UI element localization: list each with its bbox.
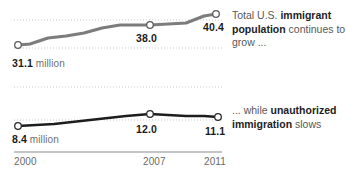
top-value-label-2011: 40.4 xyxy=(203,22,224,33)
caption-top-lead: Total U.S. xyxy=(232,9,280,21)
series-unauthorized-immigration xyxy=(15,111,222,130)
top-unit-text-2000: million xyxy=(36,58,65,69)
bottom-unit-text-2000: million xyxy=(30,134,59,145)
bottom-marker-2000 xyxy=(15,123,22,130)
caption-bottom-lead: ... while xyxy=(232,104,271,116)
bottom-value-2000: 8.4 xyxy=(12,133,27,145)
top-value-label-2007: 38.0 xyxy=(136,33,157,44)
bottom-marker-2011 xyxy=(215,114,222,121)
top-marker-2011 xyxy=(213,11,220,18)
bottom-value-label-2000: 8.4 million xyxy=(12,134,59,145)
caption-bottom: ... while unauthorized immigration slows xyxy=(232,104,346,131)
x-tick-2000: 2000 xyxy=(14,157,37,167)
bottom-value-label-2007: 12.0 xyxy=(136,124,157,135)
top-marker-2007 xyxy=(147,22,154,29)
top-value-label-2000: 31.1 million xyxy=(12,58,65,69)
bottom-marker-2007 xyxy=(147,111,154,118)
series-total-immigrant-population xyxy=(15,11,220,49)
bottom-value-label-2011: 11.1 xyxy=(205,126,225,137)
top-marker-2000 xyxy=(15,42,22,49)
top-value-2000: 31.1 xyxy=(12,57,33,69)
x-tick-2011: 2011 xyxy=(204,157,226,167)
gridlines xyxy=(14,20,222,120)
immigration-trend-figure: 31.1 million 38.0 40.4 8.4 million 12.0 … xyxy=(0,0,346,177)
top-line-path xyxy=(18,14,216,45)
caption-top: Total U.S. immigrant population continue… xyxy=(232,9,346,50)
x-tick-2007: 2007 xyxy=(143,157,166,167)
caption-bottom-tail: slows xyxy=(292,118,321,130)
